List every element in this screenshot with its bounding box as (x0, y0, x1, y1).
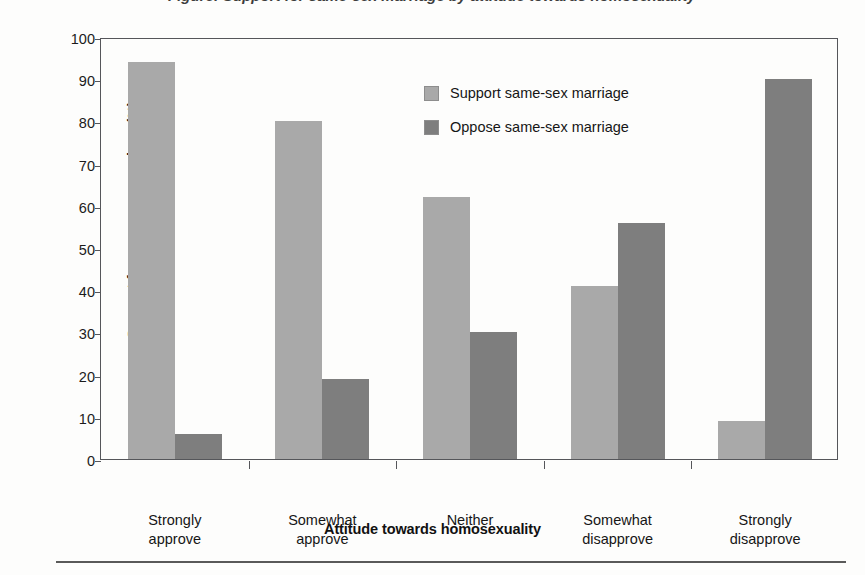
bar-support (423, 197, 470, 459)
y-tick-mark (95, 250, 101, 251)
bar-support (275, 121, 322, 459)
y-tick-label: 30 (65, 326, 95, 342)
legend-item: Oppose same-sex marriage (424, 110, 629, 144)
y-tick-label: 100 (65, 31, 95, 47)
bar-oppose (175, 434, 222, 459)
y-tick-mark (95, 123, 101, 124)
y-tick-mark (95, 377, 101, 378)
y-tick-mark (95, 292, 101, 293)
x-tick-mark (396, 461, 397, 469)
legend-label: Support same-sex marriage (450, 85, 629, 101)
bar-support (128, 62, 175, 459)
x-axis-title: Attitude towards homosexuality (0, 521, 865, 537)
y-tick-label: 0 (65, 453, 95, 469)
y-tick-mark (95, 419, 101, 420)
bar-support (718, 421, 765, 459)
y-tick-label: 10 (65, 411, 95, 427)
y-tick-mark (95, 81, 101, 82)
clipped-figure-title: Figure: Support for same-sex marriage by… (0, 0, 865, 12)
y-tick-label: 70 (65, 158, 95, 174)
chart-legend: Support same-sex marriageOppose same-sex… (424, 76, 629, 144)
x-tick-mark (691, 461, 692, 469)
y-tick-mark (95, 166, 101, 167)
y-tick-mark (95, 208, 101, 209)
bar-oppose (322, 379, 369, 459)
footer-divider (56, 561, 846, 563)
legend-swatch-icon (424, 120, 439, 135)
legend-item: Support same-sex marriage (424, 76, 629, 110)
bar-oppose (470, 332, 517, 459)
bar-support (571, 286, 618, 459)
y-tick-mark (95, 334, 101, 335)
y-tick-label: 80 (65, 115, 95, 131)
y-tick-mark (95, 39, 101, 40)
y-tick-label: 20 (65, 369, 95, 385)
x-tick-mark (249, 461, 250, 469)
y-tick-mark (95, 461, 101, 462)
figure-container: Figure: Support for same-sex marriage by… (0, 0, 865, 575)
bar-oppose (765, 79, 812, 459)
figure-title-text: Figure: Support for same-sex marriage by… (168, 0, 696, 4)
y-tick-label: 60 (65, 200, 95, 216)
x-tick-mark (544, 461, 545, 469)
legend-swatch-icon (424, 86, 439, 101)
y-tick-label: 50 (65, 242, 95, 258)
y-tick-label: 40 (65, 284, 95, 300)
plot-area: Support for same-sex marriage (%) 010203… (100, 38, 838, 460)
bar-oppose (618, 223, 665, 459)
legend-label: Oppose same-sex marriage (450, 119, 629, 135)
y-tick-label: 90 (65, 73, 95, 89)
